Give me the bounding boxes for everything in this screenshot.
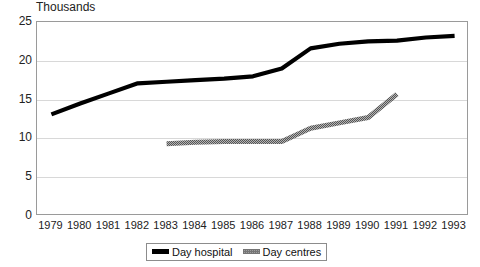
- x-axis-tick-label: 1992: [413, 218, 437, 232]
- chart-title: Thousands: [36, 0, 95, 14]
- series-line: [167, 94, 397, 144]
- x-axis-tick-label: 1989: [326, 218, 350, 232]
- x-axis-tick-label: 1979: [38, 218, 62, 232]
- y-axis-tick-label: 20: [6, 54, 32, 66]
- y-axis-tick-label: 10: [6, 131, 32, 143]
- x-axis-tick-label: 1983: [153, 218, 177, 232]
- y-axis-tick-label: 0: [6, 209, 32, 221]
- x-axis-tick-label: 1984: [182, 218, 206, 232]
- series-layer: [37, 22, 469, 216]
- x-axis-tick-label: 1980: [67, 218, 91, 232]
- legend-swatch-day-hospital-icon: [152, 249, 169, 254]
- x-axis-tick-label: 1993: [441, 218, 465, 232]
- x-axis-tick-label: 1986: [240, 218, 264, 232]
- legend-swatch-day-centres-icon: [243, 249, 260, 254]
- y-axis-tick-label: 25: [6, 15, 32, 27]
- series-line: [51, 36, 454, 114]
- legend-label: Day centres: [263, 246, 322, 258]
- y-axis-tick-label: 15: [6, 93, 32, 105]
- line-chart: Thousands 0510152025 1979198019811982198…: [0, 0, 480, 267]
- x-axis-tick-label: 1982: [125, 218, 149, 232]
- x-axis-tick-label: 1990: [355, 218, 379, 232]
- plot-area: [36, 21, 468, 215]
- y-axis: 0510152025: [0, 21, 32, 215]
- legend-item[interactable]: Day hospital: [152, 246, 233, 258]
- x-axis: 1979198019811982198319841985198619871988…: [36, 218, 468, 234]
- x-axis-tick-label: 1988: [297, 218, 321, 232]
- x-axis-tick-label: 1991: [384, 218, 408, 232]
- x-axis-tick-label: 1981: [96, 218, 120, 232]
- legend-item[interactable]: Day centres: [243, 246, 322, 258]
- x-axis-tick-label: 1987: [269, 218, 293, 232]
- y-axis-tick-label: 5: [6, 170, 32, 182]
- legend-label: Day hospital: [172, 246, 233, 258]
- x-axis-tick-label: 1985: [211, 218, 235, 232]
- chart-legend: Day hospitalDay centres: [146, 243, 327, 261]
